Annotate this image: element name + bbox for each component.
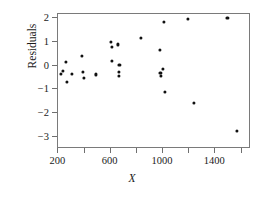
y-tick-0 bbox=[52, 65, 57, 66]
y-tick-1 bbox=[52, 41, 57, 42]
y-tick--1 bbox=[52, 88, 57, 89]
y-tick-label-1: 1 bbox=[44, 35, 49, 46]
x-tick-1200 bbox=[188, 148, 189, 153]
x-tick-800 bbox=[136, 148, 137, 153]
y-axis-label: Residuals bbox=[26, 0, 38, 106]
y-tick-label-2: 2 bbox=[44, 12, 49, 23]
x-tick-label-1400: 1400 bbox=[204, 155, 225, 166]
y-tick-label-0: 0 bbox=[44, 59, 49, 70]
plot-area-frame bbox=[57, 13, 250, 148]
x-axis-label: X bbox=[0, 172, 264, 184]
x-tick-1000 bbox=[162, 148, 163, 153]
x-tick-1400 bbox=[214, 148, 215, 153]
x-tick-600 bbox=[110, 148, 111, 153]
y-tick-label--3: −3 bbox=[38, 131, 49, 142]
y-tick-label--1: −1 bbox=[38, 83, 49, 94]
x-tick-label-200: 200 bbox=[49, 155, 65, 166]
y-tick--2 bbox=[52, 112, 57, 113]
x-tick-400 bbox=[84, 148, 85, 153]
y-tick-label--2: −2 bbox=[38, 107, 49, 118]
y-tick--3 bbox=[52, 136, 57, 137]
x-tick-200 bbox=[57, 148, 58, 153]
x-tick-1600 bbox=[241, 148, 242, 153]
scatter-plot-figure: 210−1−2−3 20060010001400 Residuals X bbox=[0, 0, 264, 204]
x-tick-label-600: 600 bbox=[102, 155, 118, 166]
y-tick-2 bbox=[52, 17, 57, 18]
x-tick-label-1000: 1000 bbox=[152, 155, 173, 166]
